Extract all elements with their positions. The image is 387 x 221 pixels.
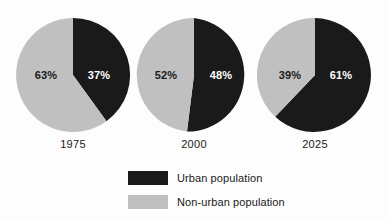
legend-label-non-urban: Non-urban population: [177, 196, 285, 208]
pie-chart-2025: 61% 39%: [257, 16, 373, 134]
pie-label-urban-1975: 37%: [88, 69, 111, 81]
pie-label-non-urban-2025: 39%: [279, 69, 302, 81]
pie-chart-2000: 48% 52%: [136, 16, 252, 134]
year-label-2000: 2000: [134, 138, 254, 150]
legend-label-urban: Urban population: [177, 172, 262, 184]
pie-svg-1975: 37% 63%: [15, 16, 131, 134]
pie-chart-1975: 37% 63%: [15, 16, 131, 134]
year-label-1975: 1975: [13, 138, 133, 150]
pie-chart-figure: 37% 63% 1975 48% 52% 2000 61% 39% 2025 U…: [0, 0, 387, 221]
legend-swatch-non-urban: [128, 195, 168, 209]
pie-label-non-urban-1975: 63%: [35, 69, 58, 81]
pie-svg-2000: 48% 52%: [136, 16, 252, 134]
legend-item-non-urban: Non-urban population: [128, 192, 285, 211]
pie-label-urban-2000: 48%: [210, 69, 233, 81]
legend-swatch-urban: [128, 171, 168, 185]
chart-legend: Urban population Non-urban population: [128, 168, 285, 216]
legend-item-urban: Urban population: [128, 168, 285, 187]
pie-label-urban-2025: 61%: [330, 69, 353, 81]
pie-label-non-urban-2000: 52%: [155, 69, 178, 81]
year-label-2025: 2025: [255, 138, 375, 150]
pie-svg-2025: 61% 39%: [257, 16, 373, 134]
